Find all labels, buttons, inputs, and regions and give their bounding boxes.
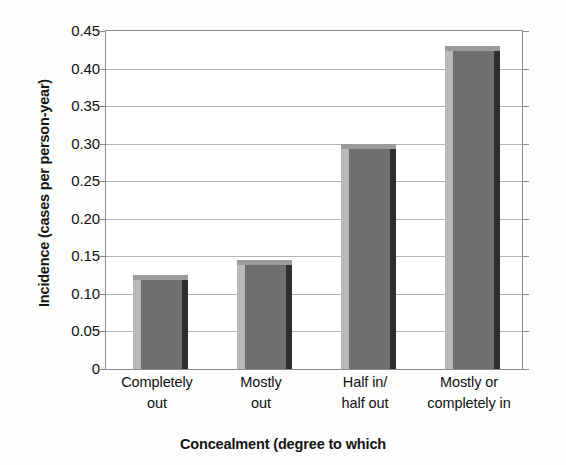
y-tick-label: 0.35 xyxy=(44,97,100,114)
y-tick-mark xyxy=(523,181,529,182)
x-tick-label-line: out xyxy=(105,393,209,414)
y-tick-mark xyxy=(99,219,105,220)
bar-chart-figure: Incidence (cases per person-year) 00.050… xyxy=(0,0,566,465)
y-tick-mark xyxy=(99,144,105,145)
bar xyxy=(445,46,500,369)
y-tick-label: 0 xyxy=(44,360,100,377)
y-tick-mark xyxy=(99,369,105,370)
y-tick-label: 0.05 xyxy=(44,322,100,339)
x-tick-label-line: Completely xyxy=(105,372,209,393)
x-tick-label-line: Half in/ xyxy=(313,372,417,393)
y-tick-mark xyxy=(523,369,529,370)
x-tick-label: Mostlyout xyxy=(209,372,313,414)
bar-front-face xyxy=(453,50,494,369)
y-tick-mark xyxy=(523,294,529,295)
y-tick-label: 0.10 xyxy=(44,284,100,301)
x-tick-label: Completelyout xyxy=(105,372,209,414)
y-tick-mark xyxy=(99,69,105,70)
bar-top-face xyxy=(133,275,188,280)
bar-right-face xyxy=(182,279,188,369)
y-tick-label: 0.20 xyxy=(44,209,100,226)
y-tick-mark xyxy=(523,331,529,332)
x-axis-tick-labels: CompletelyoutMostlyoutHalf in/half outMo… xyxy=(105,372,521,420)
y-tick-mark xyxy=(523,106,529,107)
y-tick-mark xyxy=(523,144,529,145)
x-tick-label-line: out xyxy=(209,393,313,414)
bar-front-face xyxy=(141,279,182,369)
bar-front-face xyxy=(245,264,286,369)
y-tick-label: 0.40 xyxy=(44,59,100,76)
bar-left-face xyxy=(133,279,141,369)
y-tick-label: 0.15 xyxy=(44,247,100,264)
y-tick-mark xyxy=(523,219,529,220)
x-tick-label: Mostly orcompletely in xyxy=(417,372,521,414)
bar-right-face xyxy=(286,264,292,369)
y-tick-mark xyxy=(99,256,105,257)
bar xyxy=(237,260,292,369)
y-tick-label: 0.45 xyxy=(44,22,100,39)
x-tick-label-line: Mostly or xyxy=(417,372,521,393)
y-tick-label: 0.30 xyxy=(44,134,100,151)
bar-top-face xyxy=(445,46,500,51)
y-axis-tick-labels: 00.050.100.150.200.250.300.350.400.45 xyxy=(44,30,100,368)
y-tick-mark xyxy=(99,294,105,295)
x-tick-label: Half in/half out xyxy=(313,372,417,414)
x-axis-title: Concealment (degree to which xyxy=(0,436,566,452)
y-tick-mark xyxy=(523,256,529,257)
y-tick-mark xyxy=(523,69,529,70)
bar-left-face xyxy=(445,50,453,369)
x-tick-label-line: completely in xyxy=(417,393,521,414)
x-tick-label-line: half out xyxy=(313,393,417,414)
bar-top-face xyxy=(237,260,292,265)
y-tick-mark xyxy=(99,331,105,332)
bar-front-face xyxy=(349,148,390,369)
plot-area xyxy=(105,30,523,370)
bar-right-face xyxy=(494,50,500,369)
y-tick-mark xyxy=(99,181,105,182)
y-tick-label: 0.25 xyxy=(44,172,100,189)
bar-right-face xyxy=(390,148,396,369)
y-tick-mark xyxy=(99,106,105,107)
y-tick-mark xyxy=(523,31,529,32)
bar-top-face xyxy=(341,144,396,149)
y-tick-mark xyxy=(99,31,105,32)
bar xyxy=(133,275,188,369)
bar-left-face xyxy=(237,264,245,369)
x-tick-label-line: Mostly xyxy=(209,372,313,393)
bar-left-face xyxy=(341,148,349,369)
bar xyxy=(341,144,396,369)
